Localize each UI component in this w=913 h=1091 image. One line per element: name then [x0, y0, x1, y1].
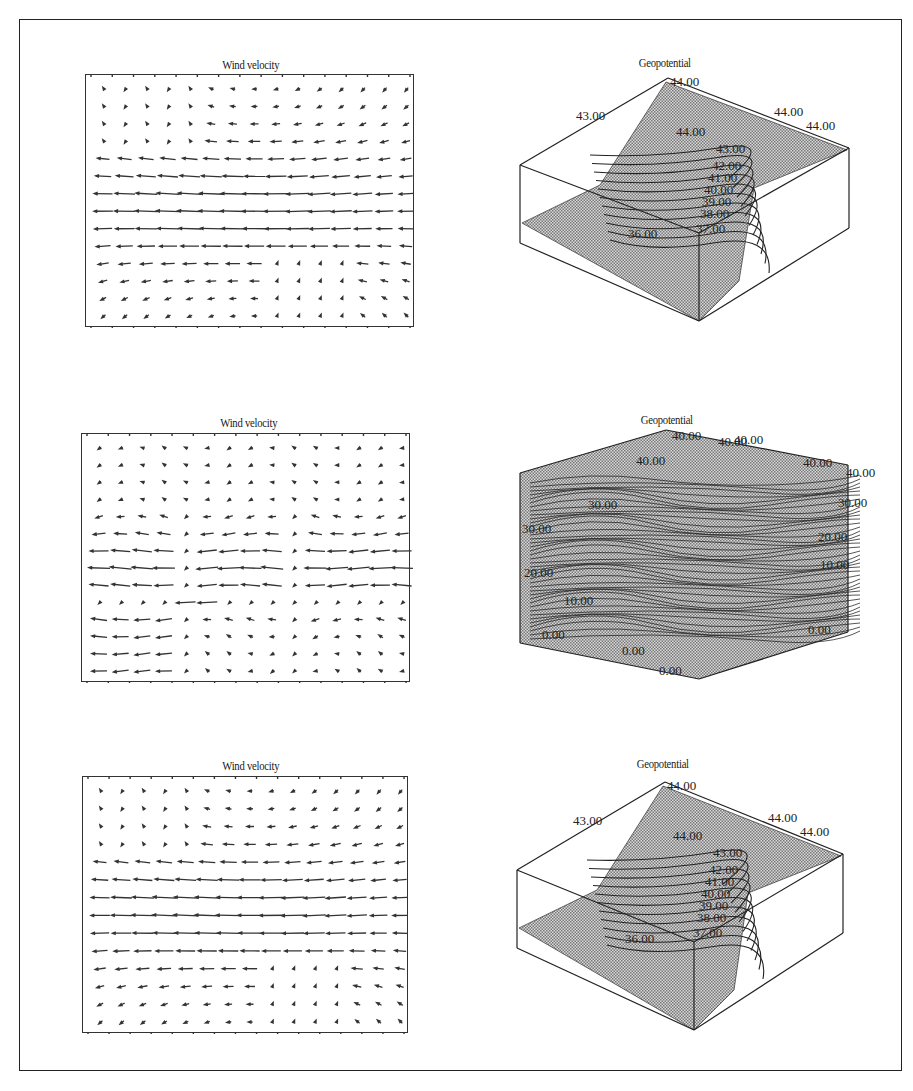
- contour-label: 44.00: [667, 778, 696, 793]
- contour-label: 36.00: [625, 931, 654, 946]
- contour-label: 38.00: [697, 910, 726, 925]
- contour-label: 44.00: [800, 824, 829, 839]
- contour-label: 44.00: [673, 828, 702, 843]
- contour-label: 43.00: [573, 813, 602, 828]
- contour-label: 37.00: [693, 925, 722, 940]
- contour-label: 44.00: [768, 810, 797, 825]
- contour-label: 43.00: [713, 845, 742, 860]
- geopotential-surface-3: 44.0043.0044.0044.0044.0043.0042.0041.00…: [0, 0, 913, 1091]
